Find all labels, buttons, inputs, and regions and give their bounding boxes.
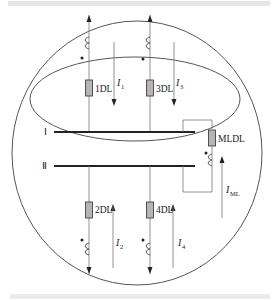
svg-text:3: 3 [180, 83, 183, 90]
feeder-2: 2DL [81, 166, 116, 274]
bus-coupler: MLDL [183, 120, 245, 192]
ct-coil-icon [208, 154, 212, 166]
feeder-3: 3DL [142, 15, 174, 132]
polarity-dot-icon [81, 239, 84, 242]
outer-protection-zone [12, 21, 262, 285]
breaker-2dl-label: 2DL [95, 205, 113, 215]
breaker-mldl-label: MLDL [218, 134, 245, 144]
breaker-1dl [86, 80, 93, 96]
breaker-2dl [86, 202, 93, 218]
arrow-down-icon [172, 99, 177, 106]
polarity-dot-icon [81, 57, 84, 60]
arrow-up-icon [220, 156, 225, 163]
arrow-up-icon [148, 15, 153, 22]
polarity-dot-icon [142, 58, 145, 61]
arrow-down-icon [112, 99, 117, 106]
bus-i: Ⅰ [44, 127, 195, 137]
cropped-text-bottom [10, 294, 270, 299]
feeder-4: 4DL [142, 166, 176, 274]
svg-text:ML: ML [230, 190, 240, 197]
breaker-3dl [147, 80, 154, 96]
arrow-up-icon [87, 15, 92, 22]
current-i4: I 4 [173, 207, 186, 268]
breaker-mldl [209, 130, 216, 146]
busbar-diagram: 1DL I 1 3DL I 3 Ⅰ Ⅱ MLDL [0, 0, 274, 300]
bus-ii: Ⅱ [42, 161, 195, 171]
arrow-down-icon [87, 267, 92, 274]
inner-bus-i-zone [30, 57, 240, 141]
svg-text:4: 4 [182, 243, 186, 250]
arrow-down-icon [148, 267, 153, 274]
ct-coil-icon [85, 37, 89, 49]
breaker-3dl-label: 3DL [156, 84, 174, 94]
current-i2: I 2 [113, 207, 123, 268]
current-iml: I ML [220, 156, 240, 218]
ct-coil-icon [85, 243, 89, 255]
ct-coil-icon [146, 243, 150, 255]
bus-ii-label: Ⅱ [42, 161, 47, 171]
breaker-4dl [147, 202, 154, 218]
current-i1: I 1 [112, 42, 125, 106]
cropped-text-top [8, 1, 270, 6]
bus-i-label: Ⅰ [44, 127, 47, 137]
current-i3: I 3 [172, 42, 184, 106]
svg-text:1: 1 [121, 83, 124, 90]
ct-coil-icon [146, 37, 150, 49]
breaker-1dl-label: 1DL [95, 84, 113, 94]
polarity-dot-icon [205, 152, 208, 155]
polarity-dot-icon [142, 239, 145, 242]
svg-text:2: 2 [120, 243, 123, 250]
